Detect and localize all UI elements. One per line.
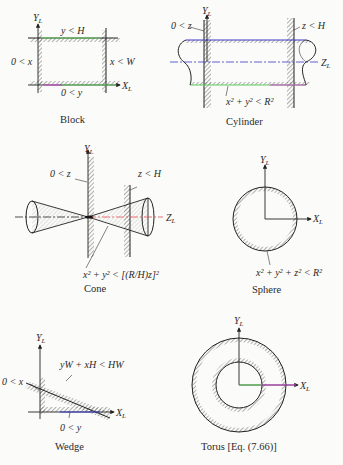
- wedge-x-axis-label: XL: [115, 407, 126, 420]
- block-caption: Block: [60, 114, 86, 125]
- cone-plane-z0: [88, 157, 94, 257]
- cylinder-constraint-z0: 0 < z: [171, 20, 192, 31]
- cone-z-axis-label: ZL: [166, 212, 176, 225]
- block-y-axis-label: YL: [33, 12, 43, 25]
- wedge-panel: YL XL yW + xH < HW 0 < x 0 < y Wedge: [2, 332, 126, 452]
- wedge-constraint-bottom: 0 < y: [60, 422, 82, 433]
- cone-caption: Cone: [84, 283, 107, 294]
- block-left-hatch: [38, 30, 42, 92]
- cylinder-constraint-zH: z < H: [301, 20, 326, 31]
- cone-constraint-zH: z < H: [137, 168, 162, 179]
- cylinder-plane-zH: [287, 18, 294, 108]
- cone-constraint-z0: 0 < z: [50, 168, 71, 179]
- block-x-axis-label: XL: [121, 80, 132, 93]
- block-constraint-bottom: 0 < y: [61, 87, 83, 98]
- block-constraint-top: y < H: [60, 25, 85, 36]
- cylinder-y-axis-label: YL: [202, 5, 212, 18]
- cylinder-constraint-radius: x² + y² < R²: [225, 96, 274, 107]
- cone-y-axis-label: YL: [84, 143, 94, 156]
- sphere-y-axis-label: YL: [260, 154, 270, 167]
- wedge-y-axis-label: YL: [36, 332, 46, 345]
- cylinder-plane-z0: [204, 20, 211, 108]
- cylinder-caption: Cylinder: [226, 116, 263, 127]
- cylinder-z-axis-label: ZL: [321, 57, 331, 70]
- wedge-caption: Wedge: [55, 441, 84, 452]
- sphere-x-axis-label: XL: [312, 213, 323, 226]
- block-right-hatch: [102, 30, 106, 92]
- torus-caption: Torus [Eq. (7.66)]: [201, 441, 277, 453]
- block-constraint-left: 0 < x: [11, 56, 33, 67]
- torus-panel: YL XL Torus [Eq. (7.66)]: [192, 315, 310, 453]
- block-panel: YL XL y < H 0 < x x < W 0 < y Block: [11, 12, 136, 125]
- cone-panel: YL ZL 0 < z z < H x² + y² < [(R/H)z]² Co…: [15, 143, 176, 294]
- cone-constraint-surface: x² + y² < [(R/H)z]²: [82, 269, 160, 281]
- cylinder-panel: YL ZL 0 < z z < H x² + y² < R² Cylinder: [170, 5, 331, 127]
- primitive-solids-figure: YL XL y < H 0 < x x < W 0 < y Block Y: [0, 0, 343, 465]
- sphere-constraint: x² + y² + z² < R²: [255, 267, 323, 278]
- torus-x-axis-label: XL: [299, 380, 310, 393]
- sphere-panel: YL XL x² + y² + z² < R² Sphere: [233, 154, 323, 295]
- wedge-constraint-hypotenuse: yW + xH < HW: [59, 359, 125, 370]
- torus-y-axis-label: YL: [234, 315, 244, 328]
- wedge-hypotenuse: [26, 383, 110, 418]
- wedge-constraint-left: 0 < x: [2, 376, 24, 387]
- block-constraint-right: x < W: [109, 56, 136, 67]
- sphere-caption: Sphere: [252, 284, 281, 295]
